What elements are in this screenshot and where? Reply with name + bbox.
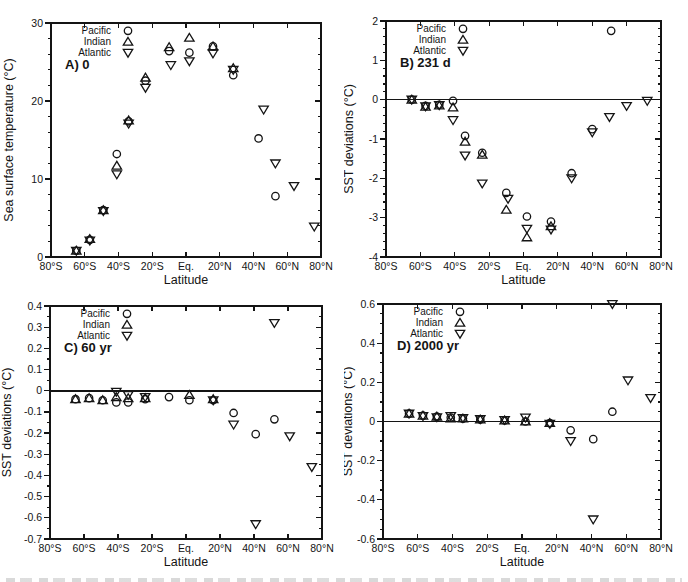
x-tick-label: Eq.: [178, 542, 194, 554]
x-tick-label: 60°S: [409, 260, 432, 272]
circle-marker: [607, 27, 614, 34]
y-tick-label: -0.6: [24, 511, 42, 523]
circle-marker: [123, 310, 130, 317]
x-tick-label: 80°N: [649, 260, 672, 272]
x-tick-label: 60°N: [276, 260, 299, 272]
y-tick-label: -0.5: [24, 490, 42, 502]
x-axis-title: Latitude: [164, 273, 209, 287]
x-tick-label: 60°N: [276, 542, 299, 554]
triangle-down-marker: [259, 106, 268, 114]
triangle-down-marker: [208, 50, 217, 58]
circle-marker: [590, 435, 597, 442]
y-tick-label: 0: [369, 415, 375, 427]
x-tick-label: 20°S: [478, 260, 501, 272]
legend-label-pacific: Pacific: [417, 23, 446, 34]
x-tick-label: 80°S: [372, 542, 395, 554]
y-tick-label: 0: [372, 93, 378, 105]
triangle-up-marker: [458, 35, 467, 43]
panel-b-sst-deviations-231d-chart: -4-3-2-101280°S60°S40°S20°SEq.20°N40°N60…: [344, 0, 688, 291]
panel-title: B) 231 d: [400, 55, 451, 70]
cut-off-caption-fragment: [6, 578, 682, 582]
triangle-down-marker: [123, 49, 132, 57]
triangle-up-marker: [122, 320, 131, 328]
circle-marker: [459, 25, 466, 32]
panel-a-sea-surface-temperature-chart: 010203080°S60°S40°S20°SEq.20°N40°N60°N80…: [0, 0, 344, 291]
triangle-up-marker: [502, 205, 511, 213]
triangle-up-marker: [185, 33, 194, 41]
panel-title: C) 60 yr: [64, 340, 112, 355]
triangle-down-marker: [448, 117, 457, 125]
triangle-up-marker: [455, 318, 464, 326]
circle-marker: [124, 27, 131, 34]
legend-label-pacific: Pacific: [82, 25, 111, 36]
circle-marker: [523, 213, 530, 220]
x-tick-label: 40°S: [441, 542, 464, 554]
legend: PacificIndianAtlantic: [78, 25, 132, 58]
series-pacific: [73, 43, 280, 255]
x-tick-label: 40°N: [242, 542, 265, 554]
circle-marker: [609, 408, 616, 415]
circle-marker: [567, 427, 574, 434]
circle-marker: [230, 409, 237, 416]
x-axis-title: Latitude: [500, 555, 545, 569]
y-tick-label: 0: [36, 384, 42, 396]
x-tick-label: 40°N: [580, 542, 603, 554]
x-tick-label: 20°N: [208, 260, 231, 272]
triangle-down-marker: [122, 332, 131, 340]
sst-four-panel-figure: 010203080°S60°S40°S20°SEq.20°N40°N60°N80…: [0, 0, 688, 582]
x-tick-label: 20°N: [208, 542, 231, 554]
y-tick-label: 1: [372, 54, 378, 66]
triangle-down-marker: [307, 464, 316, 472]
circle-marker: [271, 416, 278, 423]
triangle-down-marker: [285, 433, 294, 441]
x-tick-label: 60°S: [73, 260, 96, 272]
y-axis-title: SST deviations (°C): [0, 368, 14, 478]
x-tick-label: 60°N: [615, 542, 638, 554]
circle-marker: [568, 170, 575, 177]
x-tick-label: 40°N: [581, 260, 604, 272]
y-tick-label: 30: [31, 17, 43, 29]
y-tick-label: 0.2: [360, 376, 375, 388]
legend: PacificIndianAtlantic: [413, 23, 467, 56]
legend-label-indian: Indian: [419, 34, 446, 45]
triangle-down-marker: [289, 183, 298, 191]
panel-grid: 010203080°S60°S40°S20°SEq.20°N40°N60°N80…: [0, 0, 688, 582]
y-tick-label: -2: [369, 172, 378, 184]
triangle-down-marker: [141, 84, 150, 92]
x-tick-label: 60°S: [406, 542, 429, 554]
x-tick-label: 60°N: [615, 260, 638, 272]
y-tick-label: -0.3: [24, 448, 42, 460]
y-tick-label: -1: [369, 133, 378, 145]
triangle-down-marker: [458, 47, 467, 55]
triangle-down-marker: [478, 180, 487, 188]
triangle-up-marker: [112, 161, 121, 169]
x-tick-label: 40°N: [242, 260, 265, 272]
circle-marker: [272, 192, 279, 199]
y-tick-label: 10: [31, 173, 43, 185]
y-axis-title: SST deviations (°C): [344, 84, 356, 194]
x-tick-label: 80°S: [40, 260, 63, 272]
y-tick-label: -0.1: [24, 405, 42, 417]
y-tick-label: -0.4: [357, 493, 375, 505]
x-tick-label: 80°N: [310, 542, 333, 554]
triangle-down-marker: [566, 438, 575, 446]
x-axis-title: Latitude: [501, 273, 546, 287]
triangle-down-marker: [643, 97, 652, 105]
triangle-down-marker: [271, 160, 280, 168]
y-axis-title: Sea surface temperature (°C): [2, 58, 16, 221]
x-tick-label: 40°S: [443, 260, 466, 272]
legend-label-indian: Indian: [416, 317, 443, 328]
triangle-down-marker: [460, 152, 469, 160]
legend-label-pacific: Pacific: [81, 308, 110, 319]
series-indian: [404, 409, 554, 426]
x-tick-label: 80°S: [375, 260, 398, 272]
legend-label-indian: Indian: [84, 36, 111, 47]
triangle-down-marker: [270, 320, 279, 328]
legend: PacificIndianAtlantic: [77, 308, 131, 341]
triangle-up-marker: [448, 103, 457, 111]
triangle-down-marker: [251, 521, 260, 529]
y-tick-label: -0.4: [24, 469, 42, 481]
triangle-down-marker: [185, 58, 194, 66]
series-atlantic: [72, 50, 319, 255]
series-indian: [407, 95, 556, 240]
